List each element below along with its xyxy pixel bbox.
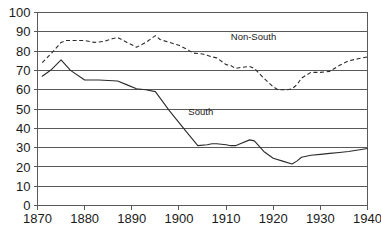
chart-figure: 0102030405060708090100187018801890190019… — [0, 0, 381, 233]
xtick-label-1940: 1940 — [353, 211, 381, 226]
ytick-label-10: 10 — [16, 179, 30, 194]
ytick-label-100: 100 — [9, 5, 31, 20]
ytick-label-50: 50 — [16, 102, 30, 117]
ytick-label-70: 70 — [16, 63, 30, 78]
xtick-label-1870: 1870 — [23, 211, 52, 226]
series-line-non-south — [42, 36, 367, 90]
line-chart-svg: 0102030405060708090100187018801890190019… — [0, 0, 381, 233]
ytick-label-60: 60 — [16, 82, 30, 97]
ytick-label-30: 30 — [16, 140, 30, 155]
series-annotation-non-south: Non-South — [231, 31, 276, 42]
figure-caption — [0, 227, 381, 233]
ytick-label-90: 90 — [16, 24, 30, 39]
series-annotation-south: South — [188, 106, 213, 117]
ytick-label-40: 40 — [16, 121, 30, 136]
xtick-label-1880: 1880 — [70, 211, 99, 226]
xtick-label-1920: 1920 — [259, 211, 288, 226]
xtick-label-1890: 1890 — [117, 211, 146, 226]
xtick-label-1930: 1930 — [306, 211, 335, 226]
xtick-label-1910: 1910 — [212, 211, 241, 226]
ytick-label-20: 20 — [16, 160, 30, 175]
xtick-label-1900: 1900 — [164, 211, 193, 226]
ytick-label-80: 80 — [16, 44, 30, 59]
